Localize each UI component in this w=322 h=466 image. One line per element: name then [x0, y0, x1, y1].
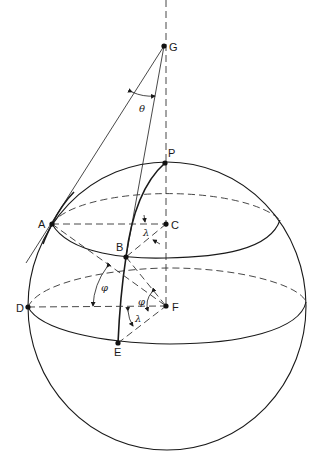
label-phi-right: φ [138, 296, 145, 307]
line-d-f [28, 306, 166, 307]
label-f: F [172, 301, 179, 313]
line-g-b [126, 46, 164, 257]
lambda-lower-arc [128, 311, 133, 326]
point-d [25, 304, 30, 309]
point-f [163, 303, 168, 308]
label-theta: θ [139, 103, 145, 114]
label-lambda-upper: λ [142, 227, 149, 238]
point-e [115, 340, 120, 345]
lambda-upper-arrow-2 [153, 240, 160, 244]
theta-arc [132, 92, 155, 96]
point-c [163, 221, 168, 226]
label-b: B [116, 241, 123, 253]
tangent-arc [43, 192, 74, 244]
point-b [123, 254, 128, 259]
label-g: G [169, 41, 178, 53]
label-a: A [38, 218, 46, 230]
sphere-diagram: G P A C B D F E θ λ φ φ λ [0, 0, 322, 466]
label-lambda-lower: λ [134, 313, 141, 324]
equator-back [28, 268, 306, 307]
label-p: P [168, 147, 175, 159]
label-phi-left: φ [101, 282, 108, 293]
lambda-upper-arrow-1 [144, 215, 145, 222]
label-d: D [16, 302, 24, 314]
label-c: C [171, 219, 179, 231]
meridian-arc [118, 163, 165, 343]
point-a [49, 221, 54, 226]
point-g [161, 43, 166, 48]
line-b-f [126, 257, 166, 306]
point-p [162, 160, 167, 165]
label-e: E [114, 346, 121, 358]
line-e-f [118, 306, 166, 343]
